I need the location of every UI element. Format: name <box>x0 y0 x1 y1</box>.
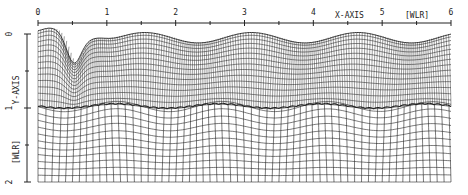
mesh-plot: 0123456 012 X-AXIS [WLR] Y-AXIS [WLR] <box>0 0 468 195</box>
x-tick-label: 6 <box>449 8 454 17</box>
y-tick-label: 2 <box>5 179 14 184</box>
y-axis-label: Y-AXIS <box>12 75 21 104</box>
y-tick-label: 1 <box>5 105 14 110</box>
x-axis: 0123456 <box>36 8 454 26</box>
x-tick-label: 2 <box>173 8 178 17</box>
y-tick-label: 0 <box>5 31 14 36</box>
x-tick-label: 5 <box>380 8 385 17</box>
x-tick-label: 1 <box>104 8 109 17</box>
x-tick-label: 3 <box>242 8 247 17</box>
x-tick-label: 4 <box>311 8 316 17</box>
y-axis-unit: [WLR] <box>12 140 21 164</box>
x-tick-label: 0 <box>36 8 41 17</box>
upper-mesh <box>38 28 451 109</box>
x-axis-label: X-AXIS <box>335 11 364 20</box>
x-axis-unit: [WLR] <box>405 11 429 20</box>
lower-mesh <box>38 101 451 182</box>
mesh-figure: 0123456 012 X-AXIS [WLR] Y-AXIS [WLR] <box>0 0 468 195</box>
